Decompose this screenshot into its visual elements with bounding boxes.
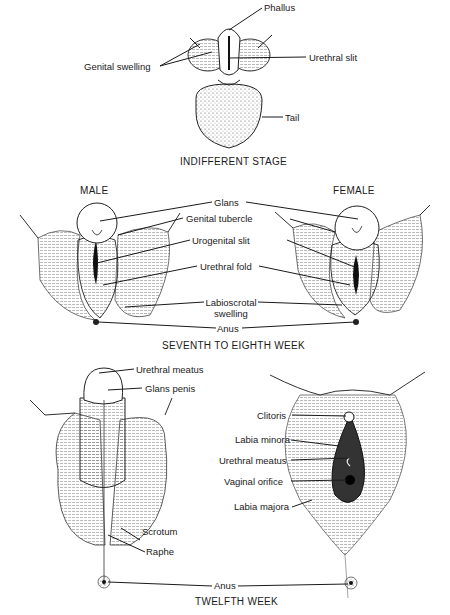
week12-female-drawing [270,372,425,598]
indifferent-stage-drawing [160,8,306,148]
week7-8-male-drawing [20,203,180,325]
tail-shape [196,84,262,148]
clitoris-shape [344,412,354,422]
label-tail: Tail [285,112,299,123]
label-urethral-meatus-female: Urethral meatus [219,455,287,466]
female-glans [335,206,379,250]
label-urethral-fold: Urethral fold [200,261,252,272]
label-glans: Glans [214,197,239,208]
label-labioscrotal-line2: swelling [214,308,248,319]
label-genital-swelling: Genital swelling [84,61,151,72]
label-labia-majora: Labia majora [234,501,289,512]
label-urethral-meatus-male: Urethral meatus [136,364,204,375]
caption-seventh-to-eighth-week: SEVENTH TO EIGHTH WEEK [162,340,305,351]
label-genital-tubercle: Genital tubercle [186,213,253,224]
label-phallus: Phallus [264,2,295,13]
label-raphe: Raphe [146,546,174,557]
heading-male: MALE [80,185,108,196]
label-anus-7-8: Anus [217,323,239,334]
label-clitoris: Clitoris [257,410,286,421]
label-urethral-slit: Urethral slit [309,52,357,63]
labioscrotal-right [115,228,170,317]
penis-shaft [80,398,125,488]
glans-penis-shape [84,368,123,404]
label-labioscrotal-swelling: Labioscrotal swelling [203,297,259,319]
caption-twelfth-week: TWELFTH WEEK [195,596,278,607]
label-vaginal-orifice: Vaginal orifice [224,476,283,487]
label-scrotum: Scrotum [142,526,177,537]
caption-indifferent-stage: INDIFFERENT STAGE [180,156,287,167]
male-glans [77,203,117,243]
heading-female: FEMALE [333,185,375,196]
label-glans-penis: Glans penis [145,383,195,394]
label-anus-12: Anus [214,580,236,591]
week7-8-female-drawing [275,205,430,325]
label-urogenital-slit: Urogenital slit [192,235,250,246]
label-labia-minora: Labia minora [235,434,290,445]
label-labioscrotal-line1: Labioscrotal [205,297,256,308]
